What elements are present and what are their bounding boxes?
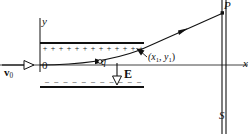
exit-point-x-symbol: (x	[148, 51, 156, 62]
plate-plus-sign: +	[67, 44, 72, 53]
initial-velocity-label: v0	[4, 67, 13, 80]
plate-minus-sign: –	[136, 77, 142, 86]
plate-plus-sign: +	[51, 44, 56, 53]
physics-diagram: +++++++++++++ ––––––––––– y 0 x v0 q E (…	[0, 0, 252, 134]
plate-minus-sign: –	[44, 77, 50, 86]
plate-plus-sign: +	[107, 44, 112, 53]
plate-minus-sign: –	[90, 77, 96, 86]
plate-plus-sign: +	[139, 44, 144, 53]
plate-plus-sign: +	[43, 44, 48, 53]
plate-plus-sign: +	[75, 44, 80, 53]
screen-point-label: P	[224, 0, 231, 11]
y-axis-label: y	[42, 16, 47, 27]
top-plate-charge-signs: +++++++++++++	[43, 44, 144, 53]
initial-velocity-arrowhead	[24, 61, 34, 70]
plate-minus-sign: –	[53, 77, 59, 86]
plate-minus-sign: –	[72, 77, 78, 86]
plate-minus-sign: –	[118, 77, 124, 86]
exit-point-label: (x1, y1)	[148, 52, 175, 63]
initial-velocity-subscript: 0	[10, 72, 14, 80]
plate-minus-sign: –	[81, 77, 87, 86]
x-axis-label: x	[243, 58, 248, 69]
exit-point-y-symbol: , y	[159, 51, 168, 62]
origin-label: 0	[42, 60, 48, 71]
plate-plus-sign: +	[131, 44, 136, 53]
plate-plus-sign: +	[99, 44, 104, 53]
point-p-marker	[221, 11, 224, 14]
plate-plus-sign: +	[123, 44, 128, 53]
straight-line-direction-arrowhead	[178, 28, 188, 35]
plate-minus-sign: –	[99, 77, 105, 86]
plate-plus-sign: +	[59, 44, 64, 53]
exit-point-close-paren: )	[172, 51, 175, 62]
plate-plus-sign: +	[115, 44, 120, 53]
plate-minus-sign: –	[62, 77, 68, 86]
plate-plus-sign: +	[83, 44, 88, 53]
electric-field-label: E	[124, 68, 132, 80]
plate-plus-sign: +	[91, 44, 96, 53]
charge-label: q	[101, 57, 106, 67]
screen-label: S	[219, 110, 225, 121]
